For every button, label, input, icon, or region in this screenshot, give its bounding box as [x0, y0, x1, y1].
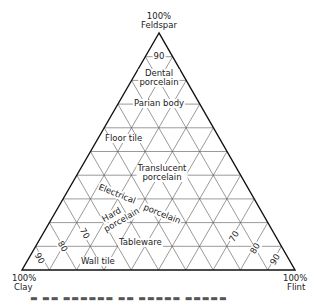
- region-floor-tile: Floor tile: [104, 134, 143, 143]
- region-wall-tile: Wall tile: [80, 257, 116, 266]
- flint-vertex-label: Flint: [287, 283, 305, 292]
- region-label-line: porcelain: [139, 78, 178, 87]
- clay-vertex-label: Clay: [14, 283, 33, 292]
- ternary-diagram: 100% Feldspar 100% Clay 100% Flint 90 90…: [0, 0, 320, 302]
- region-dental-porcelain: Dental porcelain: [138, 69, 179, 87]
- region-tableware: Tableware: [118, 238, 163, 247]
- tick-feldspar-90: 90: [153, 52, 166, 61]
- figure-caption-truncated: ▬ ▬▬ ▬▬▬▬▬▬ ▬▬ ▬▬▬▬▬ ▬▬▬▬▬: [30, 294, 227, 302]
- region-label-line: porcelain: [138, 173, 187, 182]
- region-translucent-porcelain: Translucent porcelain: [137, 164, 188, 182]
- region-parian-body: Parian body: [133, 99, 185, 108]
- feldspar-vertex-label: Feldspar: [141, 21, 177, 30]
